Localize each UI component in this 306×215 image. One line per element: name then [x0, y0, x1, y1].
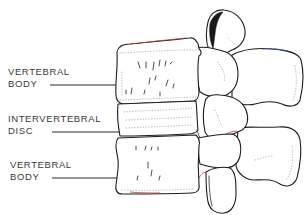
label-lower-vertebral-body: VERTEBRAL BODY [10, 159, 72, 183]
spine-diagram: VERTEBRAL BODY INTERVERTEBRAL DISC VERTE… [0, 0, 306, 215]
label-intervertebral-disc: INTERVERTEBRAL DISC [8, 113, 101, 137]
label-upper-vertebral-body-line1: VERTEBRAL [8, 66, 70, 78]
lower-vertebral-body [116, 135, 200, 194]
label-upper-vertebral-body-line2: BODY [8, 78, 70, 90]
intervertebral-disc [118, 101, 201, 140]
label-intervertebral-disc-line2: DISC [8, 125, 101, 137]
label-intervertebral-disc-line1: INTERVERTEBRAL [8, 113, 101, 125]
lower-vertebra-processes [198, 95, 301, 213]
label-lower-vertebral-body-line2: BODY [10, 171, 72, 183]
upper-vertebra-processes [196, 10, 303, 106]
label-lower-vertebral-body-line1: VERTEBRAL [10, 159, 72, 171]
label-upper-vertebral-body: VERTEBRAL BODY [8, 66, 70, 90]
upper-vertebral-body [116, 38, 201, 104]
